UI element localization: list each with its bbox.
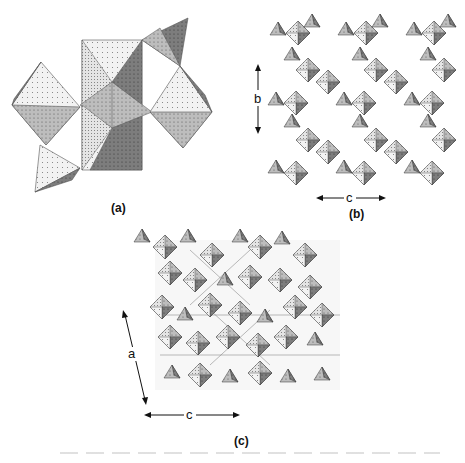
- axis-label-c-b: c: [346, 190, 353, 205]
- axis-c-arrow-c: c: [144, 407, 240, 422]
- panel-label-a: (a): [111, 201, 126, 215]
- panel-c: a c (c): [100, 225, 360, 463]
- panel-a: (a): [0, 0, 240, 230]
- polyhedra-lattice-b: b c: [240, 0, 465, 230]
- axis-label-c-c: c: [186, 407, 193, 422]
- lattice-b: [268, 14, 456, 185]
- framework-c: [134, 229, 340, 390]
- panel-label-c: (c): [234, 434, 249, 448]
- polyhedra-framework-c: a c: [100, 225, 360, 463]
- polyhedra-cluster-a: [0, 0, 240, 230]
- axis-a-arrow: a: [122, 310, 148, 405]
- axis-b-arrow: b: [252, 64, 264, 134]
- caption-remnant: [60, 452, 440, 454]
- panel-label-b: (b): [349, 207, 364, 221]
- panel-b: b c (b): [240, 0, 465, 230]
- axis-c-arrow: c: [316, 190, 386, 205]
- axis-label-a: a: [128, 346, 136, 361]
- axis-label-b: b: [254, 91, 261, 106]
